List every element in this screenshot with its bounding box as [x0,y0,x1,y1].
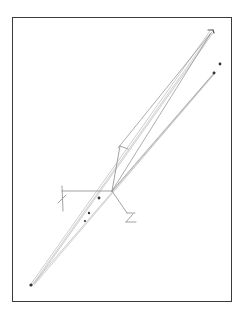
long-line [34,72,216,285]
marker-dot [84,220,86,222]
long-line [35,33,213,283]
marker-dot [88,212,90,214]
skeleton-line [112,191,127,213]
markers-group [29,63,221,287]
marker-dot [219,63,222,66]
long-line [112,73,214,191]
skeleton-line [126,214,133,222]
long-line [31,31,210,284]
skeleton-line [120,146,128,149]
long-line [32,74,214,285]
line-drawing [0,0,244,317]
skeleton-line [58,195,66,203]
end-glyph [213,30,214,33]
marker-dot [213,72,216,75]
marker-dot [98,197,101,200]
long-lines-group [31,31,216,285]
long-line [33,32,212,284]
long-line [112,33,211,191]
marker-dot [29,283,32,286]
